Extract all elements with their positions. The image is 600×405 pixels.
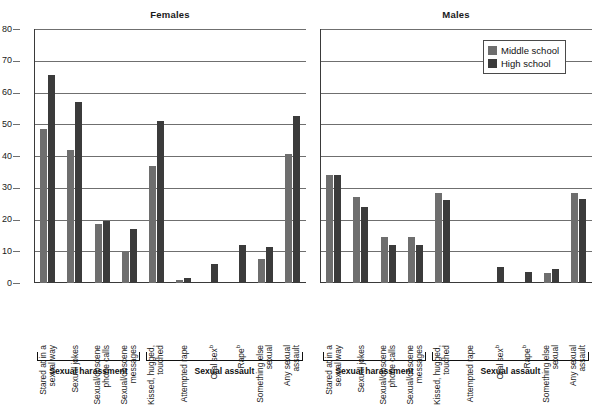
gridline [320,156,592,157]
legend-label-high-school: High school [501,58,551,69]
section-bracket [37,352,140,361]
section-bracket [146,352,303,361]
bar-middle-school [122,252,129,283]
y-axis-tick-mark [13,29,20,30]
y-axis-tick-label: 60 [0,88,12,97]
y-axis-tick-label: 0 [0,279,12,288]
bar-high-school [389,245,396,283]
y-axis-tick-mark [13,251,20,252]
y-axis-tick-label: 70 [0,56,12,65]
panel-title-females: Females [34,9,306,20]
gridline [320,93,592,94]
bar-high-school [75,102,82,283]
bar-middle-school [95,224,102,283]
bar-middle-school [40,129,47,283]
y-axis-tick-mark [13,220,20,221]
section-label: Sexual harassment [37,366,140,376]
gridline [34,29,306,30]
gridline [320,29,592,30]
bar-middle-school [258,259,265,283]
bar-high-school [416,245,423,283]
bar-middle-school [176,280,183,283]
bar-high-school [334,175,341,283]
y-axis-tick-mark [13,188,20,189]
y-axis-tick-mark [13,156,20,157]
legend-label-middle-school: Middle school [501,45,559,56]
bar-high-school [239,245,246,283]
bar-middle-school [67,150,74,283]
bar-middle-school [544,273,551,283]
bar-high-school [211,264,218,283]
gridline [34,61,306,62]
bar-high-school [103,221,110,283]
y-axis-tick-mark [13,124,20,125]
bar-high-school [293,116,300,283]
bar-high-school [48,75,55,283]
section-label: Sexual assault [146,366,303,376]
y-axis-tick-mark [13,283,20,284]
y-axis-tick-label: 50 [0,120,12,129]
bar-middle-school [285,154,292,283]
y-axis-tick-label: 80 [0,25,12,34]
bar-middle-school [571,193,578,283]
bar-high-school [552,269,559,283]
bar-high-school [361,207,368,283]
bar-high-school [130,229,137,283]
bar-high-school [184,278,191,283]
gridline [34,93,306,94]
bar-high-school [157,121,164,283]
gridline [320,124,592,125]
bar-middle-school [435,193,442,283]
chart-legend: Middle school High school [483,40,566,74]
y-axis-tick-label: 10 [0,247,12,256]
y-axis-tick-mark [13,93,20,94]
section-label: Sexual harassment [323,366,426,376]
bar-middle-school [149,166,156,283]
axis-left-edge [34,29,35,283]
y-axis: 01020304050607080 [0,0,34,312]
plot-area-females [34,29,306,283]
panel-title-males: Males [320,9,592,20]
bar-high-school [443,200,450,283]
gridline [320,188,592,189]
bar-high-school [497,267,504,283]
y-axis-tick-label: 20 [0,215,12,224]
bar-high-school [525,272,532,283]
bar-high-school [579,199,586,283]
legend-item-middle-school: Middle school [488,44,559,57]
y-axis-tick-label: 30 [0,183,12,192]
y-axis-tick-mark [13,61,20,62]
section-bracket [432,352,589,361]
y-axis-tick-label: 40 [0,152,12,161]
legend-item-high-school: High school [488,57,559,70]
bar-middle-school [326,175,333,283]
section-bracket [323,352,426,361]
axis-left-edge [320,29,321,283]
bar-middle-school [381,237,388,283]
bar-middle-school [408,237,415,283]
bar-high-school [266,247,273,284]
section-label: Sexual assault [432,366,589,376]
bar-middle-school [353,197,360,283]
legend-swatch-high-school [488,59,497,68]
legend-swatch-middle-school [488,46,497,55]
